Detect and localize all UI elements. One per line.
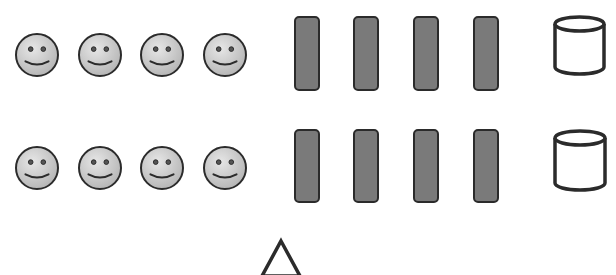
row-1: [16, 17, 604, 90]
eye-icon: [28, 47, 33, 52]
smiley-face-icon: [16, 147, 58, 189]
database-cylinder-icon: [555, 131, 605, 190]
eye-icon: [91, 160, 96, 165]
eye-icon: [166, 160, 171, 165]
smiley-face-icon: [79, 147, 121, 189]
server-bar-shape: [354, 130, 378, 202]
smiley-face-icon: [204, 147, 246, 189]
eye-icon: [104, 47, 109, 52]
server-bar-shape: [295, 17, 319, 90]
server-bar-shape: [474, 130, 498, 202]
eye-icon: [104, 160, 109, 165]
smiley-face-icon: [141, 147, 183, 189]
diagram-canvas: [0, 0, 616, 275]
smiley-face-icon: [204, 34, 246, 76]
smiley-face-icon: [79, 34, 121, 76]
eye-icon: [91, 47, 96, 52]
server-bar-shape: [474, 17, 498, 90]
eye-icon: [216, 47, 221, 52]
server-bar-shape: [414, 130, 438, 202]
server-bar-shape: [414, 17, 438, 90]
eye-icon: [166, 47, 171, 52]
server-bar-shape: [354, 17, 378, 90]
eye-icon: [153, 47, 158, 52]
database-cylinder-icon: [555, 17, 604, 74]
eye-icon: [229, 160, 234, 165]
row-2: [16, 130, 605, 202]
eye-icon: [41, 160, 46, 165]
eye-icon: [216, 160, 221, 165]
smiley-face-icon: [16, 34, 58, 76]
eye-icon: [229, 47, 234, 52]
eye-icon: [41, 47, 46, 52]
shapes-layer: [16, 17, 605, 275]
server-bar-shape: [295, 130, 319, 202]
smiley-face-icon: [141, 34, 183, 76]
eye-icon: [28, 160, 33, 165]
eye-icon: [153, 160, 158, 165]
triangle-shape: [262, 241, 300, 275]
